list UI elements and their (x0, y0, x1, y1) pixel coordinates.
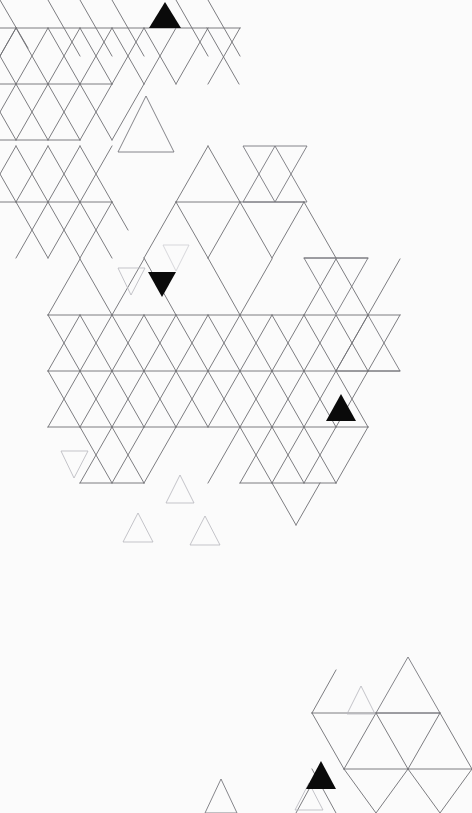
paper-background (0, 0, 472, 813)
artboard (0, 0, 472, 813)
lattice-canvas (0, 0, 472, 813)
